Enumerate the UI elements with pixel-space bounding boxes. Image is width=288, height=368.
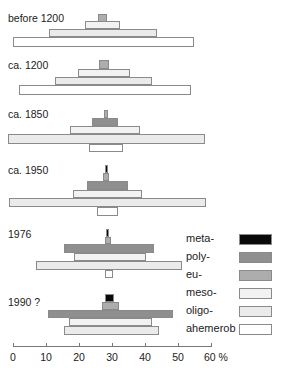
bar-oligo [49, 29, 157, 37]
period-label: 1976 [8, 228, 31, 240]
bar-poly [92, 118, 118, 126]
bar-ahemerob [13, 37, 194, 47]
bar-oligo [55, 77, 152, 85]
legend-label: oligo- [186, 304, 213, 316]
legend-label: eu- [186, 268, 202, 280]
bar-poly [64, 244, 154, 253]
x-tick-label: 40 [139, 351, 151, 363]
x-tick [13, 343, 14, 347]
bar-ahemerob [105, 270, 113, 278]
bar-poly [48, 310, 173, 318]
legend-label: ahemerob [186, 322, 236, 334]
legend-label: poly- [186, 250, 210, 262]
x-tick [145, 343, 146, 347]
x-tick [178, 343, 179, 347]
x-tick [79, 343, 80, 347]
x-tick-label: 10 [40, 351, 52, 363]
x-tick [46, 343, 47, 347]
bar-meso [69, 318, 152, 326]
x-tick-label: 30 [106, 351, 118, 363]
bar-oligo [8, 134, 205, 144]
bar-meta [105, 294, 114, 302]
legend-label: meso- [186, 286, 217, 298]
x-tick-label: 20 [73, 351, 85, 363]
period-label: before 1200 [8, 12, 64, 24]
legend-swatch [239, 324, 272, 335]
period-label: ca. 1950 [8, 164, 48, 176]
bar-eu [104, 110, 108, 118]
bar-oligo [64, 326, 159, 335]
bar-meso [73, 190, 142, 198]
bar-poly [87, 181, 128, 190]
legend-label: meta- [186, 232, 214, 244]
period-label: 1990 ? [8, 296, 40, 308]
bar-meso [85, 21, 120, 29]
period-label: ca. 1850 [8, 108, 48, 120]
bar-eu [103, 173, 109, 181]
bar-oligo [36, 261, 182, 270]
bar-meta [106, 229, 109, 237]
bar-meso [74, 253, 146, 261]
bar-oligo [9, 198, 206, 207]
bar-ahemerob [89, 144, 123, 152]
x-tick-label: 60 % [204, 351, 228, 363]
legend-swatch [239, 270, 272, 281]
legend-swatch [239, 288, 272, 299]
bar-ahemerob [19, 85, 191, 95]
bar-eu [105, 237, 111, 244]
bar-meso [70, 126, 140, 134]
x-tick-label: 50 [172, 351, 184, 363]
period-label: ca. 1200 [8, 59, 48, 71]
bar-meso [78, 69, 130, 77]
x-tick [112, 343, 113, 347]
legend-swatch [239, 306, 272, 317]
bar-eu [102, 302, 119, 310]
bar-eu [99, 60, 109, 69]
x-tick-label: 0 [10, 351, 16, 363]
bar-ahemerob [97, 207, 118, 216]
x-tick [211, 343, 212, 347]
legend-swatch [239, 252, 272, 263]
bar-meta [105, 165, 108, 173]
legend-swatch [239, 234, 272, 245]
